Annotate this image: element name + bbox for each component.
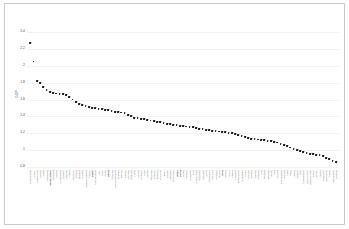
data-point — [224, 131, 226, 133]
data-point — [39, 83, 41, 85]
x-axis-labels: LuxembourgNorwaySwitzerlandIrelandQatarS… — [27, 170, 339, 216]
y-axis-title: GDP — [15, 74, 19, 114]
y-tick-label: 1.2 — [20, 132, 25, 135]
scatter-plot-area: 2.42.221.81.61.41.210.8 — [27, 32, 339, 167]
data-point — [309, 153, 311, 155]
data-point — [33, 61, 35, 63]
data-point — [146, 119, 148, 121]
x-tick-label: Somalia — [336, 170, 339, 179]
data-point — [176, 124, 178, 126]
gridline — [27, 32, 339, 33]
data-point — [299, 150, 301, 152]
data-point — [179, 125, 181, 127]
data-point — [137, 118, 139, 120]
data-point — [153, 120, 155, 122]
data-point — [81, 104, 83, 106]
data-point — [133, 117, 135, 119]
data-point — [208, 129, 210, 131]
data-point — [189, 126, 191, 128]
data-point — [202, 129, 204, 131]
data-point — [94, 107, 96, 109]
data-point — [195, 127, 197, 129]
data-point — [55, 93, 57, 95]
data-point — [117, 111, 119, 113]
y-tick-label: 1.4 — [20, 115, 25, 118]
data-point — [228, 132, 230, 134]
data-point — [140, 118, 142, 120]
data-point — [270, 140, 272, 142]
data-point — [192, 126, 194, 128]
data-point — [101, 108, 103, 110]
gridline — [27, 100, 339, 101]
data-point — [254, 138, 256, 140]
data-point — [283, 144, 285, 146]
chart-plot-wrapper: GDP 2.42.221.81.61.41.210.8 LuxembourgNo… — [5, 4, 346, 226]
data-point — [289, 147, 291, 149]
data-point — [198, 128, 200, 130]
data-point — [185, 126, 187, 128]
data-point — [205, 129, 207, 131]
y-tick-label: 1.8 — [20, 81, 25, 84]
data-point — [85, 105, 87, 107]
data-point — [250, 138, 252, 140]
data-point — [241, 135, 243, 137]
data-point — [325, 157, 327, 159]
data-point — [62, 93, 64, 95]
data-point — [302, 151, 304, 153]
data-point — [257, 139, 259, 141]
data-point — [182, 125, 184, 127]
y-tick-label: 0.8 — [20, 165, 25, 168]
gridline — [27, 49, 339, 50]
data-point — [273, 141, 275, 143]
data-point — [59, 93, 61, 95]
data-point — [107, 110, 109, 112]
chart-figure-frame: GDP 2.42.221.81.61.41.210.8 LuxembourgNo… — [4, 3, 345, 225]
data-point — [293, 148, 295, 150]
data-point — [280, 143, 282, 145]
data-point — [328, 158, 330, 160]
data-point — [72, 99, 74, 101]
data-point — [65, 94, 67, 96]
data-point — [263, 139, 265, 141]
data-point — [231, 132, 233, 134]
data-point — [286, 145, 288, 147]
data-point — [315, 154, 317, 156]
data-point — [46, 89, 48, 91]
data-point — [156, 121, 158, 123]
data-point — [49, 91, 51, 93]
data-point — [221, 131, 223, 133]
y-tick-label: 1.6 — [20, 98, 25, 101]
data-point — [312, 153, 314, 155]
data-point — [143, 118, 145, 120]
data-point — [104, 109, 106, 111]
data-point — [332, 160, 334, 162]
data-point — [150, 120, 152, 122]
data-point — [260, 139, 262, 141]
data-point — [169, 123, 171, 125]
y-tick-label: 2.4 — [20, 30, 25, 33]
data-point — [52, 92, 54, 94]
data-point — [75, 101, 77, 103]
data-point — [211, 130, 213, 132]
data-point — [306, 152, 308, 154]
data-point — [234, 133, 236, 135]
data-point — [91, 107, 93, 109]
data-point — [319, 154, 321, 156]
gridline — [27, 83, 339, 84]
data-point — [88, 106, 90, 108]
data-point — [68, 96, 70, 98]
y-tick-label: 1 — [23, 148, 25, 151]
data-point — [130, 115, 132, 117]
data-point — [237, 134, 239, 136]
gridline — [27, 167, 339, 168]
data-point — [127, 114, 129, 116]
gridline — [27, 150, 339, 151]
data-point — [98, 108, 100, 110]
data-point — [29, 42, 31, 44]
data-point — [247, 137, 249, 139]
data-point — [78, 103, 80, 105]
data-point — [276, 142, 278, 144]
data-point — [124, 112, 126, 114]
data-point — [163, 122, 165, 124]
data-point — [335, 161, 337, 163]
